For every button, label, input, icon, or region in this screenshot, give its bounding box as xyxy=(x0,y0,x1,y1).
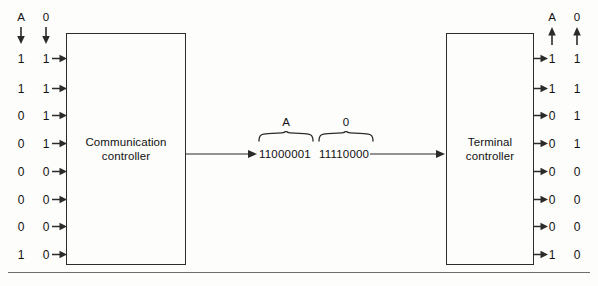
right-bit-zero-4: 0 xyxy=(571,166,583,178)
right-bit-zero-2: 1 xyxy=(571,110,583,122)
serial-label-a: A xyxy=(272,117,300,129)
brace-group-zero xyxy=(318,131,374,142)
left-bit-a-2: 0 xyxy=(15,110,27,122)
right-bit-a-1: 1 xyxy=(546,83,558,95)
serial-bits-group-a: 11000001 xyxy=(259,148,311,160)
right-bit-zero-7: 0 xyxy=(571,249,583,261)
left-bit-a-6: 0 xyxy=(15,221,27,233)
right-bit-a-7: 1 xyxy=(546,249,558,261)
right-bit-a-4: 0 xyxy=(546,166,558,178)
left-bit-a-4: 0 xyxy=(15,166,27,178)
right-header-arrow-zero-up xyxy=(570,27,584,45)
left-bit-zero-7: 0 xyxy=(40,249,52,261)
right-bit-zero-5: 0 xyxy=(571,194,583,206)
right-bit-zero-6: 0 xyxy=(571,221,583,233)
communication-controller-label: Communication controller xyxy=(85,135,166,163)
right-bit-zero-1: 1 xyxy=(571,83,583,95)
terminal-controller-block: Terminal controller xyxy=(446,33,534,265)
left-bit-zero-2: 1 xyxy=(40,110,52,122)
right-bit-a-2: 0 xyxy=(546,110,558,122)
left-bit-a-1: 1 xyxy=(15,83,27,95)
left-bit-a-3: 0 xyxy=(15,138,27,150)
serial-bits-group-zero: 11110000 xyxy=(319,148,369,160)
left-bit-zero-3: 1 xyxy=(40,138,52,150)
left-bit-a-5: 0 xyxy=(15,194,27,206)
right-bit-a-5: 0 xyxy=(546,194,558,206)
left-header-arrow-zero-down xyxy=(39,27,53,45)
right-header-arrow-a-up xyxy=(545,27,559,45)
left-bit-zero-6: 0 xyxy=(40,221,52,233)
terminal-controller-label-line2: controller xyxy=(466,150,514,162)
bottom-divider xyxy=(8,272,590,273)
serial-link-line xyxy=(186,146,446,162)
right-bit-a-0: 1 xyxy=(546,53,558,65)
terminal-controller-label-line1: Terminal xyxy=(468,136,512,148)
left-bit-zero-1: 1 xyxy=(40,83,52,95)
right-bit-zero-0: 1 xyxy=(571,53,583,65)
communication-controller-label-line1: Communication xyxy=(85,136,166,148)
left-bit-a-0: 1 xyxy=(15,53,27,65)
right-bit-a-3: 0 xyxy=(546,138,558,150)
right-header-label-a: A xyxy=(545,12,559,24)
left-bit-zero-0: 1 xyxy=(40,53,52,65)
left-bit-zero-5: 0 xyxy=(40,194,52,206)
left-header-label-a: A xyxy=(14,12,28,24)
left-bit-zero-4: 0 xyxy=(40,166,52,178)
right-bit-zero-3: 1 xyxy=(571,138,583,150)
communication-controller-block: Communication controller xyxy=(66,33,186,265)
terminal-controller-label: Terminal controller xyxy=(466,135,514,163)
left-header-label-zero: 0 xyxy=(39,12,53,24)
right-bit-a-6: 0 xyxy=(546,221,558,233)
right-header-label-zero: 0 xyxy=(570,12,584,24)
serial-label-zero: 0 xyxy=(332,117,360,129)
communication-controller-label-line2: controller xyxy=(102,150,150,162)
data-transmission-diagram: A 0 A 0 1 1 1 1 0 1 0 1 xyxy=(0,0,598,286)
left-header-arrow-a-down xyxy=(14,27,28,45)
brace-group-a xyxy=(258,131,314,142)
left-bit-a-7: 1 xyxy=(15,249,27,261)
